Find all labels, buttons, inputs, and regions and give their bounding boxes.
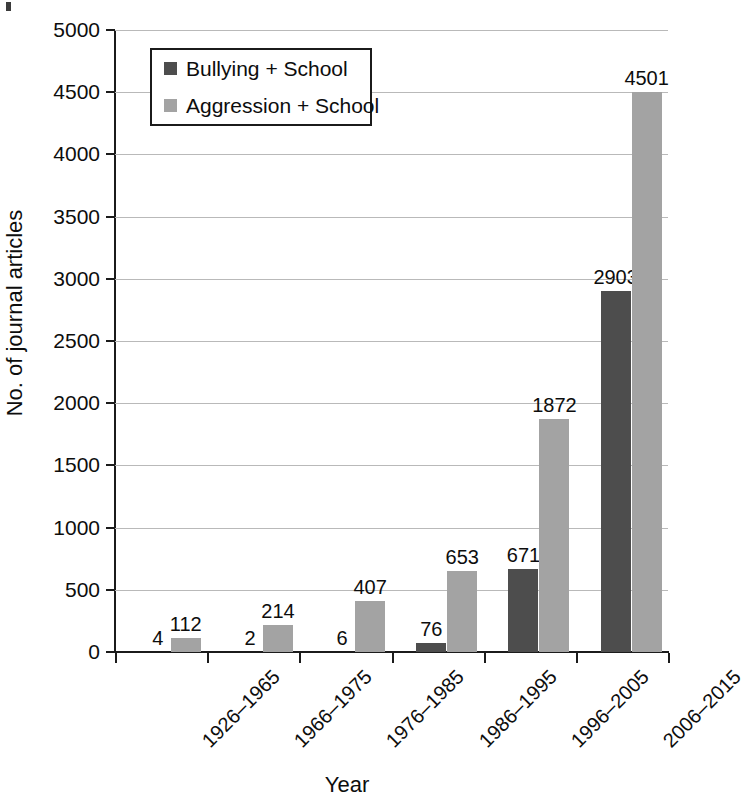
y-axis-title: No. of journal articles	[2, 33, 28, 593]
x-tick-label: 1976–1985	[383, 666, 468, 751]
y-tick-label: 500	[40, 579, 100, 600]
bar	[508, 569, 538, 652]
legend-swatch-icon	[164, 99, 177, 112]
bar	[447, 571, 477, 652]
bar	[171, 638, 201, 652]
bar-value-label: 407	[340, 577, 400, 597]
y-tick-label: 2500	[40, 330, 100, 351]
scan-artifact	[6, 2, 11, 11]
y-tick-label: 1000	[40, 517, 100, 538]
gridline	[115, 465, 668, 466]
gridline	[115, 403, 668, 404]
gridline	[115, 30, 668, 31]
y-tick-label: 3000	[40, 268, 100, 289]
x-tick-mark	[207, 653, 209, 663]
legend-label: Aggression + School	[186, 95, 379, 116]
y-tick-label: 5000	[40, 19, 100, 40]
legend-label: Bullying + School	[186, 58, 348, 79]
x-tick-mark	[299, 653, 301, 663]
x-tick-label: 1966–1975	[290, 666, 375, 751]
x-tick-label: 1926–1965	[198, 666, 283, 751]
legend-item-aggression: Aggression + School	[152, 87, 370, 124]
x-tick-label: 1986–1995	[475, 666, 560, 751]
x-tick-mark	[668, 653, 670, 663]
x-tick-mark	[576, 653, 578, 663]
gridline	[115, 341, 668, 342]
y-tick-label: 1500	[40, 454, 100, 475]
bar-value-label: 214	[248, 601, 308, 621]
x-tick-mark	[484, 653, 486, 663]
bar-value-label: 4501	[617, 68, 677, 88]
gridline	[115, 217, 668, 218]
x-tick-label: 1996–2005	[567, 666, 652, 751]
bar	[263, 625, 293, 652]
y-tick-label: 4500	[40, 81, 100, 102]
y-tick-label: 4000	[40, 143, 100, 164]
bar-value-label: 653	[432, 547, 492, 567]
gridline	[115, 154, 668, 155]
gridline	[115, 528, 668, 529]
legend-item-bullying: Bullying + School	[152, 50, 370, 87]
bar	[355, 601, 385, 652]
y-tick-label: 0	[40, 641, 100, 662]
x-tick-label: 2006–2015	[659, 666, 744, 751]
bar-value-label: 1872	[524, 395, 584, 415]
x-tick-mark	[115, 653, 117, 663]
y-tick-label: 2000	[40, 392, 100, 413]
y-tick-label: 3500	[40, 206, 100, 227]
bar-value-label: 112	[156, 614, 216, 634]
chart-legend: Bullying + School Aggression + School	[150, 48, 372, 126]
bar	[601, 291, 631, 652]
bar	[632, 92, 662, 652]
legend-swatch-icon	[164, 62, 177, 75]
x-axis-title: Year	[0, 772, 694, 798]
x-tick-mark	[392, 653, 394, 663]
bar	[539, 419, 569, 652]
bar	[416, 643, 446, 652]
